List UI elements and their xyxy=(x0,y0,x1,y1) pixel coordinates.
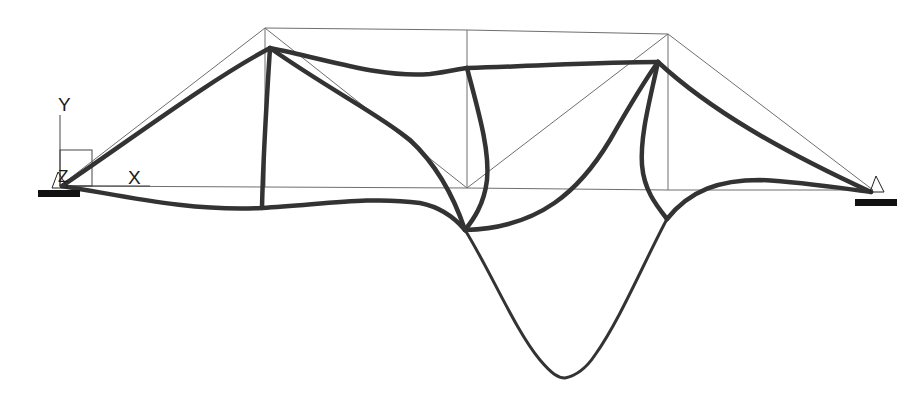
truss-diagram xyxy=(0,0,920,396)
undeformed-truss xyxy=(60,28,873,190)
deformed-sag-curve xyxy=(465,219,667,378)
structure-viewport[interactable]: Y X Z xyxy=(0,0,920,396)
y-axis-label: Y xyxy=(58,95,71,114)
x-axis-label: X xyxy=(128,168,141,187)
z-axis-label: Z xyxy=(58,168,68,185)
